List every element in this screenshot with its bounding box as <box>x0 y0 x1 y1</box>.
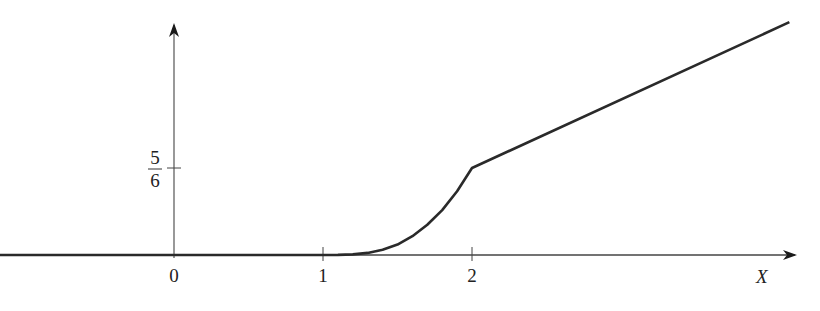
x-tick-label: 1 <box>318 265 328 286</box>
x-tick-label: 2 <box>467 265 477 286</box>
x-ticks: 012 <box>169 247 477 286</box>
chart: 012 56 X <box>0 0 820 311</box>
x-tick-label: 0 <box>169 265 179 286</box>
y-ticks: 56 <box>148 147 181 191</box>
y-tick-label-numerator: 5 <box>150 147 160 168</box>
x-axis-label: X <box>755 266 769 287</box>
series-line-curve <box>0 22 789 255</box>
y-tick-label-denominator: 6 <box>150 170 160 191</box>
